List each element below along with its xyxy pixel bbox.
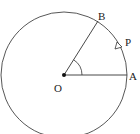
label-p: P <box>125 36 131 48</box>
label-o: O <box>54 82 62 94</box>
circle-diagram: O A B P <box>0 0 140 134</box>
segment-ob <box>64 21 98 75</box>
diagram-svg: O A B P <box>0 0 140 134</box>
label-b: B <box>98 10 105 22</box>
center-point-o <box>62 73 66 77</box>
angle-arc <box>74 60 82 75</box>
label-a: A <box>129 70 137 82</box>
